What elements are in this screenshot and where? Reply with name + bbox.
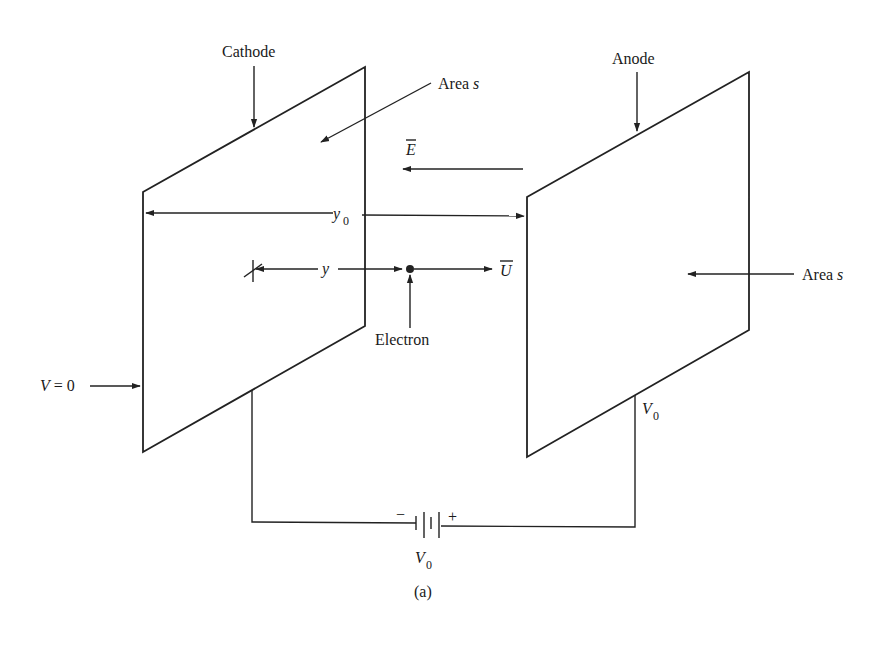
figure-caption: (a) bbox=[414, 583, 432, 601]
velocity-label: U bbox=[500, 262, 513, 279]
separation-label: y bbox=[331, 205, 341, 223]
battery-minus-label: − bbox=[396, 506, 405, 523]
field-label: E bbox=[405, 141, 416, 158]
anode-area-label: Area s bbox=[802, 266, 843, 283]
cathode-area-arrow bbox=[321, 83, 431, 142]
parallel-plate-diode-diagram: Cathode Area s Anode E y 0 y U Electron … bbox=[0, 0, 884, 655]
cathode-wire bbox=[252, 390, 416, 523]
battery-plus-label: + bbox=[448, 508, 457, 525]
anode-wire bbox=[441, 395, 635, 527]
anode-potential-subscript: 0 bbox=[653, 409, 659, 423]
anode-label: Anode bbox=[612, 50, 655, 67]
battery-voltage-subscript: 0 bbox=[426, 558, 432, 572]
cathode-label: Cathode bbox=[222, 43, 275, 60]
cathode-area-label: Area s bbox=[438, 75, 479, 92]
electron-dot bbox=[406, 265, 414, 273]
separation-arrow-right bbox=[362, 215, 524, 216]
anode-plate bbox=[527, 72, 749, 457]
position-label: y bbox=[320, 260, 330, 278]
separation-subscript: 0 bbox=[343, 214, 349, 228]
cathode-potential-label: V = 0 bbox=[40, 377, 75, 394]
electron-label: Electron bbox=[375, 331, 429, 348]
